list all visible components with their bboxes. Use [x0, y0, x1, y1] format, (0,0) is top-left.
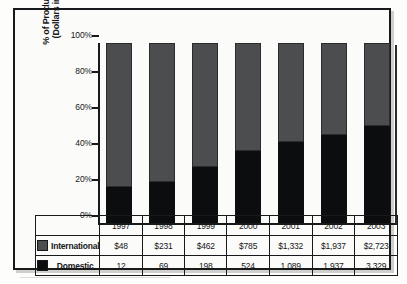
table-corner-cell	[36, 216, 100, 236]
table-row: International$48$231$462$785$1,332$1,937…	[36, 236, 398, 256]
bar-segment-international-2001	[278, 43, 304, 142]
bar-1997	[106, 43, 132, 223]
plot-inner: 100% 80% 60% 40% 20% 0%	[98, 35, 398, 215]
bar-segment-domestic-2001	[278, 142, 304, 223]
bar-2003	[364, 43, 390, 223]
legend-label: Domestic	[51, 261, 99, 271]
y-tick-label-60: 60%	[52, 102, 92, 112]
table-cell-international-1998: $231	[142, 236, 184, 256]
y-tick-label-80: 80%	[52, 66, 92, 76]
table-row-years: 1997199819992000200120022003	[36, 216, 398, 236]
bar-segment-international-1998	[149, 43, 175, 182]
plot-area: % of Product Revenue (Dollars in Million…	[98, 27, 398, 215]
bar-segment-international-2003	[364, 43, 390, 126]
table-cell-domestic-1998: 69	[142, 256, 184, 276]
legend-item-international: International	[36, 236, 100, 256]
bar-segment-international-2002	[321, 43, 347, 135]
table-cell-international-1999: $462	[185, 236, 227, 256]
table-cell-domestic-2000: 524	[227, 256, 269, 276]
table-cell-domestic-1997: 12	[100, 256, 142, 276]
table-row: Domestic12691985241,0891,9373,329	[36, 256, 398, 276]
table-cell-domestic-2003: 3,329	[355, 256, 398, 276]
table-year-2001: 2001	[269, 216, 312, 236]
legend-label: International	[51, 241, 99, 251]
bar-1999	[192, 43, 218, 223]
table-year-2002: 2002	[312, 216, 355, 236]
y-tick-label-20: 20%	[52, 174, 92, 184]
table-cell-domestic-1999: 198	[185, 256, 227, 276]
bar-segment-international-1997	[106, 43, 132, 187]
table-year-1999: 1999	[185, 216, 227, 236]
black-swatch	[37, 260, 48, 271]
y-tick-label-40: 40%	[52, 138, 92, 148]
gray-swatch	[37, 240, 48, 251]
bar-1998	[149, 43, 175, 223]
table-cell-domestic-2001: 1,089	[269, 256, 312, 276]
bar-2002	[321, 43, 347, 223]
bar-segment-domestic-2002	[321, 135, 347, 223]
table-cell-international-2001: $1,332	[269, 236, 312, 256]
data-table-body: 1997199819992000200120022003Internationa…	[36, 216, 398, 276]
bar-2001	[278, 43, 304, 223]
bar-series-group	[98, 43, 398, 223]
table-cell-international-2000: $785	[227, 236, 269, 256]
data-table: 1997199819992000200120022003Internationa…	[35, 215, 398, 276]
chart-frame: % of Product Revenue (Dollars in Million…	[13, 8, 391, 270]
bar-segment-domestic-2000	[235, 151, 261, 223]
table-cell-international-1997: $48	[100, 236, 142, 256]
table-year-1998: 1998	[142, 216, 184, 236]
bar-segment-international-2000	[235, 43, 261, 151]
y-tick-100	[92, 35, 99, 37]
data-table-wrap: 1997199819992000200120022003Internationa…	[35, 215, 398, 276]
table-year-2003: 2003	[355, 216, 398, 236]
scan-artifact	[20, 277, 170, 278]
table-cell-international-2003: $2,723	[355, 236, 398, 256]
bar-segment-international-1999	[192, 43, 218, 167]
chart-screenshot: % of Product Revenue (Dollars in Million…	[0, 0, 407, 284]
table-cell-international-2002: $1,937	[312, 236, 355, 256]
bar-2000	[235, 43, 261, 223]
table-year-2000: 2000	[227, 216, 269, 236]
bar-segment-domestic-2003	[364, 126, 390, 223]
table-year-1997: 1997	[100, 216, 142, 236]
table-cell-domestic-2002: 1,937	[312, 256, 355, 276]
legend-item-domestic: Domestic	[36, 256, 100, 276]
y-tick-label-100: 100%	[52, 30, 92, 40]
